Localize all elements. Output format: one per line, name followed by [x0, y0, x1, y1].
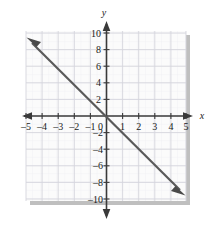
x-tick-label-4: 4	[168, 121, 173, 132]
x-tick-label-2: 2	[136, 121, 141, 132]
x-tick-label--2: –2	[68, 121, 79, 132]
y-tick-label-8: 8	[96, 44, 101, 55]
y-axis-name: y	[101, 7, 107, 18]
coordinate-plane-svg: –5 –4 –3 –2 –1 0 1 2 3 4 5 10 8 6 4 2 –2…	[0, 0, 211, 228]
x-tick-label-1: 1	[120, 121, 125, 132]
x-axis-name: x	[199, 110, 205, 121]
y-tick-label--2: –2	[92, 127, 103, 138]
x-tick-label-3: 3	[152, 121, 157, 132]
y-tick-label--6: –6	[92, 160, 103, 171]
x-tick-label-5: 5	[184, 121, 189, 132]
y-axis-top-arrowhead	[103, 21, 111, 31]
y-tick-label--4: –4	[92, 144, 103, 155]
y-tick-label-10: 10	[91, 28, 101, 39]
x-tick-label--3: –3	[52, 121, 63, 132]
y-tick-label-2: 2	[96, 94, 101, 105]
x-tick-label--5: –5	[20, 121, 31, 132]
y-axis-bottom-arrowhead	[103, 209, 111, 219]
y-tick-label--10: –10	[87, 194, 103, 205]
y-tick-label-4: 4	[96, 77, 101, 88]
graph-figure: –5 –4 –3 –2 –1 0 1 2 3 4 5 10 8 6 4 2 –2…	[0, 0, 211, 228]
y-tick-label--8: –8	[92, 177, 103, 188]
y-tick-label-6: 6	[96, 61, 101, 72]
x-tick-label--4: –4	[36, 121, 47, 132]
